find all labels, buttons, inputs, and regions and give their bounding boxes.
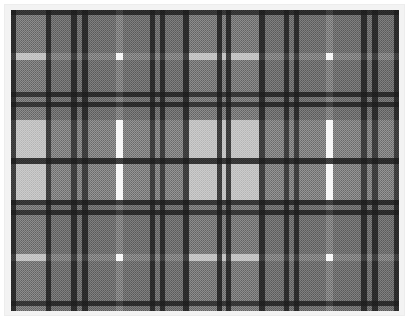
tartan-weft-layer — [11, 10, 399, 311]
tartan-cloth — [11, 10, 399, 311]
tartan-swatch-frame — [0, 0, 409, 320]
